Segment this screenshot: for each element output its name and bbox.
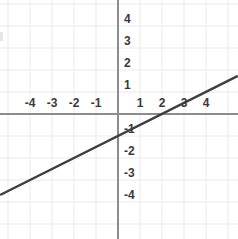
graph-canvas: -4-3-2-11234 4321-1-2-3-4 — [0, 0, 238, 239]
x-tick-label-1: 1 — [137, 97, 144, 109]
x-tick-label-4: 4 — [203, 97, 210, 109]
y-tick-label-neg3: -3 — [124, 167, 135, 179]
y-tick-label-2: 2 — [124, 57, 131, 69]
x-tick-label-neg2: -2 — [69, 97, 80, 109]
y-tick-label-3: 3 — [124, 35, 131, 47]
y-tick-label-1: 1 — [124, 79, 131, 91]
x-tick-label-neg1: -1 — [91, 97, 102, 109]
y-tick-label-4: 4 — [124, 13, 131, 25]
x-tick-label-3: 3 — [181, 97, 188, 109]
x-tick-label-neg4: -4 — [25, 97, 36, 109]
axis-lines — [0, 0, 238, 239]
y-tick-label-neg2: -2 — [124, 145, 135, 157]
y-tick-label-neg1: -1 — [124, 123, 135, 135]
x-tick-label-neg3: -3 — [47, 97, 58, 109]
x-tick-label-2: 2 — [159, 97, 166, 109]
coordinate-plane-svg — [0, 0, 238, 239]
y-tick-label-neg4: -4 — [124, 189, 135, 201]
